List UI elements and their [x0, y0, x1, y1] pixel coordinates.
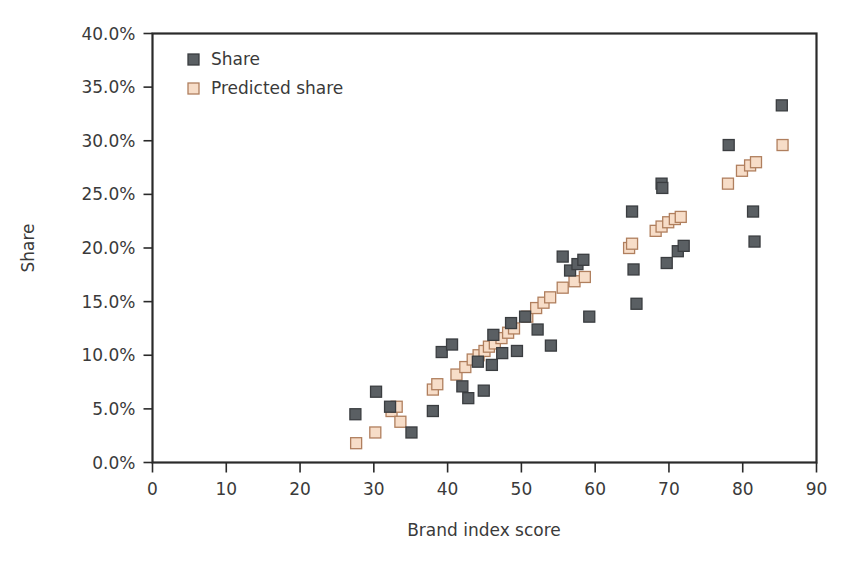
data-point-share: [488, 329, 499, 340]
data-point-predicted-share: [545, 292, 556, 303]
y-tick-label: 0.0%: [92, 453, 135, 473]
data-point-share: [497, 348, 508, 359]
y-tick-label: 40.0%: [81, 24, 135, 44]
x-axis-title: Brand index score: [407, 520, 561, 540]
data-point-share: [657, 182, 668, 193]
y-tick-label: 5.0%: [92, 399, 135, 419]
data-point-predicted-share: [351, 438, 362, 449]
data-point-predicted-share: [777, 140, 788, 151]
data-point-share: [678, 240, 689, 251]
data-point-share: [532, 324, 543, 335]
data-point-share: [436, 347, 447, 358]
data-point-share: [463, 393, 474, 404]
data-point-share: [545, 340, 556, 351]
chart-figure: 0.0%5.0%10.0%15.0%20.0%25.0%30.0%35.0%40…: [0, 0, 856, 566]
data-point-predicted-share: [722, 178, 733, 189]
y-axis-title: Share: [18, 223, 38, 272]
data-point-share: [584, 311, 595, 322]
data-point-predicted-share: [557, 282, 568, 293]
data-point-share: [350, 409, 361, 420]
x-tick-label: 20: [289, 479, 311, 499]
data-point-share: [457, 381, 468, 392]
data-point-share: [511, 345, 522, 356]
data-point-share: [557, 251, 568, 262]
legend-label-predicted-share: Predicted share: [211, 78, 343, 98]
data-point-share: [631, 298, 642, 309]
data-point-predicted-share: [751, 157, 762, 168]
data-point-predicted-share: [395, 416, 406, 427]
x-tick-label: 70: [658, 479, 680, 499]
data-point-predicted-share: [432, 379, 443, 390]
y-tick-label: 30.0%: [81, 131, 135, 151]
data-point-share: [578, 254, 589, 265]
data-point-predicted-share: [675, 211, 686, 222]
data-point-share: [749, 236, 760, 247]
data-point-share: [748, 206, 759, 217]
y-tick-label: 15.0%: [81, 292, 135, 312]
data-point-share: [447, 339, 458, 350]
legend-swatch-predicted-share: [188, 83, 199, 94]
data-point-share: [628, 264, 639, 275]
data-point-share: [486, 359, 497, 370]
data-point-predicted-share: [579, 271, 590, 282]
y-tick-label: 20.0%: [81, 238, 135, 258]
y-tick-label: 35.0%: [81, 77, 135, 97]
data-point-share: [427, 406, 438, 417]
data-point-share: [506, 318, 517, 329]
y-tick-label: 25.0%: [81, 184, 135, 204]
y-tick-label: 10.0%: [81, 345, 135, 365]
data-point-share: [723, 140, 734, 151]
legend-label-share: Share: [211, 49, 260, 69]
data-point-share: [520, 311, 531, 322]
data-point-share: [776, 100, 787, 111]
x-tick-label: 80: [732, 479, 754, 499]
data-point-predicted-share: [569, 276, 580, 287]
x-tick-label: 0: [147, 479, 158, 499]
data-point-share: [406, 427, 417, 438]
data-point-predicted-share: [370, 427, 381, 438]
data-point-share: [661, 258, 672, 269]
data-point-share: [385, 401, 396, 412]
x-tick-label: 30: [363, 479, 385, 499]
data-point-share: [472, 356, 483, 367]
x-tick-label: 90: [806, 479, 828, 499]
data-point-share: [371, 386, 382, 397]
scatter-plot-canvas: 0.0%5.0%10.0%15.0%20.0%25.0%30.0%35.0%40…: [0, 0, 856, 566]
data-point-share: [627, 206, 638, 217]
data-point-predicted-share: [627, 238, 638, 249]
x-tick-label: 50: [511, 479, 533, 499]
x-tick-label: 60: [584, 479, 606, 499]
x-tick-label: 40: [437, 479, 459, 499]
legend-swatch-share: [188, 54, 199, 65]
x-tick-label: 10: [215, 479, 237, 499]
data-point-share: [478, 385, 489, 396]
